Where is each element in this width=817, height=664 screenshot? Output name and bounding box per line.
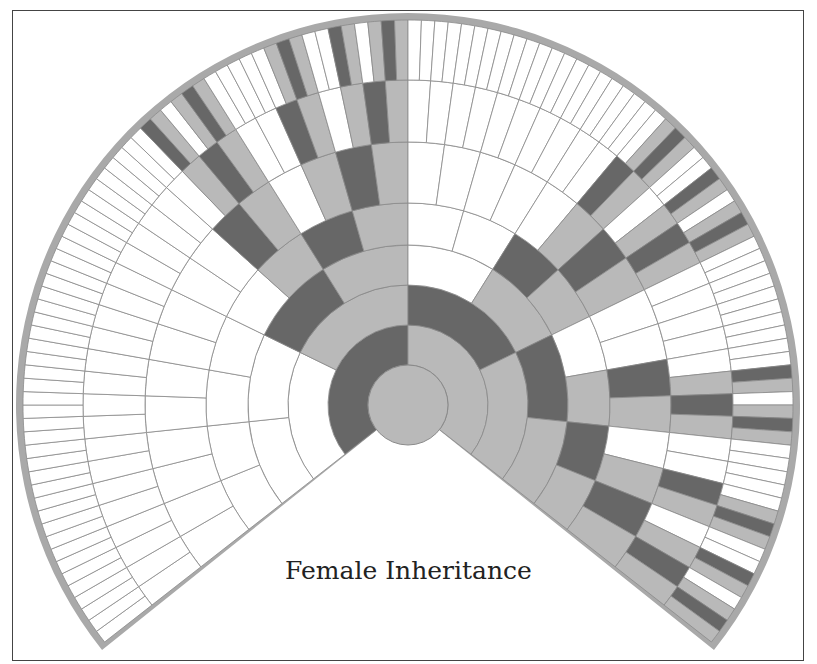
root-individual: [368, 365, 448, 445]
ancestor-segment: [206, 370, 250, 426]
ancestor-segment: [23, 405, 83, 418]
ancestor-segment: [83, 394, 145, 417]
ancestor-segment: [671, 394, 733, 417]
ancestor-segment: [566, 370, 610, 426]
ancestor-segment: [395, 20, 408, 80]
chart-title: Female Inheritance: [0, 556, 817, 585]
ancestor-segment: [145, 396, 207, 433]
ancestor-segment: [385, 80, 408, 143]
ancestor-segment: [733, 392, 793, 405]
